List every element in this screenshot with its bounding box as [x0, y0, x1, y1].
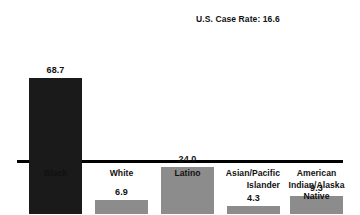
- bar-column-latino[interactable]: 24.0: [161, 155, 214, 215]
- category-label-asian-pacific-islander: Asian/PacificIslander: [209, 168, 280, 191]
- bar-column-black[interactable]: 68.7: [29, 66, 82, 214]
- category-label-black: Black: [29, 168, 82, 180]
- category-label-american-indian-alaska-native: AmericanIndian/AlaskaNative: [281, 168, 352, 203]
- category-label-white: White: [95, 168, 148, 180]
- bar-chart: U.S. Case Rate: 16.6 68.7 6.9 24.0 4.3 9…: [0, 0, 360, 214]
- bar-value-label: 24.0: [179, 155, 197, 164]
- bar-rect: [29, 78, 82, 214]
- bar-value-label: 6.9: [115, 188, 128, 197]
- bar-column-white[interactable]: 6.9: [95, 188, 148, 214]
- category-label-latino: Latino: [161, 168, 214, 180]
- bar-column-asian-pacific-islander[interactable]: 4.3: [227, 194, 280, 215]
- bar-rect: [95, 200, 148, 214]
- bar-value-label: 4.3: [247, 194, 260, 203]
- bar-rect: [227, 206, 280, 215]
- bar-value-label: 68.7: [47, 66, 65, 75]
